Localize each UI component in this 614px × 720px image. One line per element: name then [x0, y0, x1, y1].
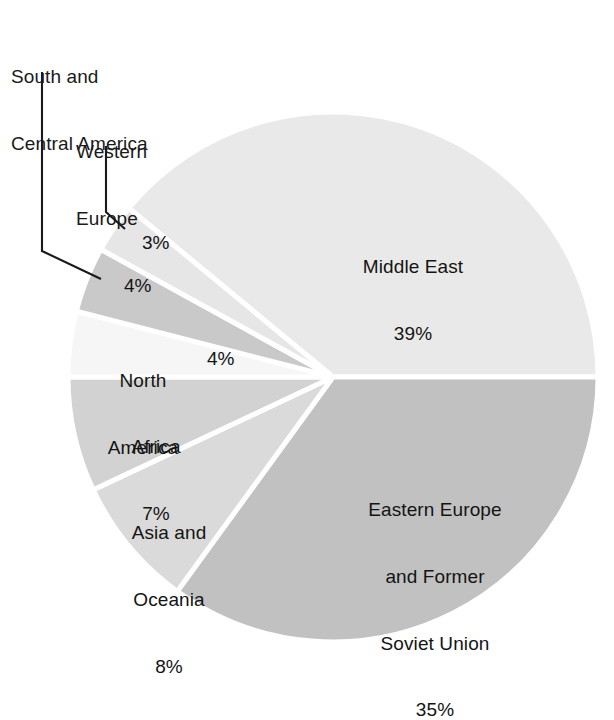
- label-western-europe: Western Europe: [76, 97, 138, 275]
- label-middle-east-line2: 39%: [343, 323, 483, 345]
- label-asia-and-oceania-line2: Oceania: [112, 589, 226, 611]
- label-south-and-central-america-line1: South and: [11, 66, 148, 88]
- percent-western-europe: 3%: [142, 232, 169, 254]
- label-western-europe-line2: Europe: [76, 208, 138, 230]
- label-eastern-europe-line2: and Former: [355, 566, 515, 588]
- label-western-europe-line1: Western: [76, 141, 138, 163]
- percent-north-america: 4%: [207, 348, 234, 370]
- label-asia-and-oceania-line1: Asia and: [112, 522, 226, 544]
- label-eastern-europe-line1: Eastern Europe: [355, 499, 515, 521]
- caption-fragment: [8, 670, 438, 681]
- percent-south-and-central-america: 4%: [124, 275, 151, 297]
- label-middle-east-line1: Middle East: [343, 256, 483, 278]
- label-eastern-europe-line3: Soviet Union: [355, 633, 515, 655]
- label-asia-and-oceania: Asia and Oceania 8%: [112, 478, 226, 720]
- label-middle-east: Middle East 39%: [343, 212, 483, 390]
- label-north-america-line1: North: [89, 370, 197, 392]
- label-eastern-europe-line4: 35%: [355, 699, 515, 720]
- label-africa-line1: Africa: [110, 436, 202, 458]
